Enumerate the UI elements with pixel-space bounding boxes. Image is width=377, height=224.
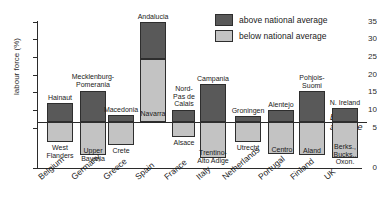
bar-belgium[interactable] [47, 0, 73, 224]
y-tick-mark [33, 110, 38, 111]
bar-france[interactable] [172, 0, 195, 224]
bar-segment-below[interactable] [172, 122, 195, 137]
bar-segment-above[interactable] [140, 22, 166, 59]
bar-segment-above[interactable] [299, 91, 325, 122]
chart-figure: labour force (%) 35302520151050 E15 aver… [0, 0, 377, 224]
region-label-below: Crete [108, 147, 134, 155]
region-label-below: Aland [299, 147, 325, 155]
region-label-below: Centro [268, 146, 296, 154]
region-label-above: Hainaut [42, 94, 78, 102]
legend-swatch-below-icon [215, 30, 233, 42]
legend-item-above: above national average [215, 13, 327, 26]
bar-segment-above[interactable] [200, 84, 226, 122]
region-label-below: Berks., Bucks., Oxon. [329, 143, 361, 166]
legend-item-below: below national average [215, 29, 327, 42]
y-tick-mark [33, 168, 38, 169]
bar-uk[interactable] [332, 0, 358, 224]
region-label-above: Andalucia [133, 13, 173, 21]
y-tick-mark [33, 39, 38, 40]
y-tick-mark [33, 92, 38, 93]
bar-segment-above[interactable] [47, 103, 73, 122]
y-axis-line [37, 21, 38, 169]
legend-swatch-above-icon [215, 14, 233, 26]
region-label-below: Trentino- Alto Adige [190, 149, 236, 164]
region-label-below: Alsace [169, 139, 199, 147]
region-label-above: N. Ireland [326, 99, 364, 107]
y-tick-mark [33, 22, 38, 23]
region-label-above: Campania [192, 75, 234, 83]
region-label-above: Nord- Pas de Calais [170, 85, 198, 108]
bar-segment-above[interactable] [172, 110, 195, 122]
bar-segment-above[interactable] [268, 110, 294, 122]
region-label-above: Pohjois- Suomi [295, 74, 329, 89]
region-label-above: Alentejo [262, 101, 300, 109]
region-label-above: Macedonia [101, 106, 141, 114]
y-axis-title: labour force (%) [12, 7, 21, 127]
bar-segment-above[interactable] [332, 108, 358, 122]
y-tick-mark [33, 75, 38, 76]
y-tick-mark [33, 57, 38, 58]
legend-label-below: below national average [239, 31, 326, 41]
y-tick-mark [33, 128, 38, 129]
bar-segment-above[interactable] [108, 115, 134, 122]
legend-label-above: above national average [239, 15, 327, 25]
bar-segment-below[interactable] [108, 122, 134, 145]
bar-segment-below[interactable] [235, 122, 261, 142]
bar-segment-below[interactable] [47, 122, 73, 142]
region-label-below: Navarra [136, 110, 170, 118]
chart-legend: above national average below national av… [215, 13, 327, 45]
